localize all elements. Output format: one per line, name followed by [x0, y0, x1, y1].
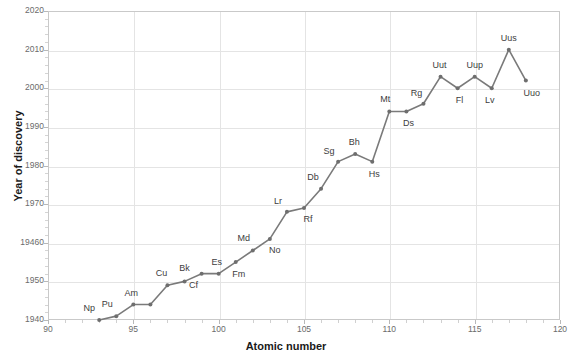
x-axis-tick-label: 90 [43, 325, 52, 334]
y-axis-tick-label: 1970 [25, 199, 44, 208]
y-axis-tick-label: 1940 [25, 315, 44, 324]
x-axis-tick-label: 115 [468, 325, 482, 334]
y-axis-minor-tick [45, 34, 48, 35]
y-axis-minor-tick [45, 142, 48, 143]
gridline-horizontal [49, 282, 559, 283]
x-axis-minor-tick [355, 320, 356, 323]
data-point-label: Mt [380, 95, 390, 104]
x-axis-tick-mark [48, 320, 49, 324]
y-axis-minor-tick [45, 57, 48, 58]
y-axis-title: Year of discovery [12, 86, 24, 226]
y-axis-minor-tick [45, 196, 48, 197]
x-axis-tick-mark [304, 320, 305, 324]
x-axis-minor-tick [150, 320, 151, 323]
y-axis-minor-tick [45, 297, 48, 298]
data-point-label: Uus [501, 33, 517, 42]
y-axis-tick-mark [44, 166, 48, 167]
x-axis-minor-tick [526, 320, 527, 323]
y-axis-minor-tick [45, 274, 48, 275]
y-axis-minor-tick [45, 173, 48, 174]
data-point-label: Lr [274, 196, 282, 205]
x-axis-tick-mark [219, 320, 220, 324]
data-point-label: Pu [102, 300, 113, 309]
y-axis-tick-mark [44, 127, 48, 128]
y-axis-minor-tick [45, 158, 48, 159]
gridline-horizontal [49, 51, 559, 52]
x-axis-tick-label: 120 [553, 325, 567, 334]
data-point-label: Uuo [524, 88, 541, 97]
y-axis-minor-tick [45, 119, 48, 120]
y-axis-tick-mark [44, 88, 48, 89]
y-axis-minor-tick [45, 42, 48, 43]
gridline-horizontal [49, 205, 559, 206]
x-axis-tick-mark [475, 320, 476, 324]
data-point-label: Db [307, 172, 319, 181]
y-axis-minor-tick [45, 312, 48, 313]
x-axis-tick-labels: 9095100105110115120 [0, 325, 572, 339]
data-point-label: Es [211, 257, 222, 266]
data-point-label: Md [238, 234, 251, 243]
x-axis-minor-tick [321, 320, 322, 323]
y-axis-tick-label: 19460 [20, 238, 44, 247]
y-axis-tick-mark [44, 204, 48, 205]
data-point-label: No [269, 245, 281, 254]
y-axis-tick-mark [44, 243, 48, 244]
x-axis-minor-tick [185, 320, 186, 323]
x-axis-minor-tick [441, 320, 442, 323]
data-point-label: Am [125, 288, 139, 297]
x-axis-tick-label: 110 [383, 325, 397, 334]
y-axis-minor-tick [45, 220, 48, 221]
y-axis-minor-tick [45, 150, 48, 151]
y-axis-minor-tick [45, 227, 48, 228]
data-point-label: Bh [349, 137, 360, 146]
y-axis-minor-tick [45, 111, 48, 112]
y-axis-tick-label: 1990 [25, 122, 44, 131]
y-axis-minor-tick [45, 189, 48, 190]
x-axis-minor-tick [202, 320, 203, 323]
y-axis-minor-tick [45, 289, 48, 290]
y-axis-tick-mark [44, 281, 48, 282]
y-axis-minor-tick [45, 266, 48, 267]
x-axis-minor-tick [82, 320, 83, 323]
gridline-horizontal [49, 167, 559, 168]
data-point-label: Uup [466, 60, 483, 69]
gridline-horizontal [49, 244, 559, 245]
x-axis-minor-tick [270, 320, 271, 323]
x-axis-title: Atomic number [0, 340, 572, 352]
gridline-vertical [134, 12, 135, 319]
x-axis-tick-mark [560, 320, 561, 324]
y-axis-tick-label: 1980 [25, 161, 44, 170]
y-axis-minor-tick [45, 212, 48, 213]
x-axis-minor-tick [287, 320, 288, 323]
x-axis-minor-tick [236, 320, 237, 323]
y-axis-minor-tick [45, 26, 48, 27]
y-axis-minor-tick [45, 65, 48, 66]
data-point-label: Cf [189, 280, 198, 289]
x-axis-tick-mark [133, 320, 134, 324]
y-axis-minor-tick [45, 181, 48, 182]
x-axis-minor-tick [253, 320, 254, 323]
data-point-label: Np [83, 304, 95, 313]
data-point-label: Cu [156, 269, 168, 278]
data-point-label: Uut [433, 60, 447, 69]
y-axis-minor-tick [45, 235, 48, 236]
gridline-vertical [305, 12, 306, 319]
x-axis-minor-tick [406, 320, 407, 323]
x-axis-tick-label: 100 [212, 325, 226, 334]
plot-area [48, 11, 560, 320]
x-axis-minor-tick [543, 320, 544, 323]
x-axis-minor-tick [116, 320, 117, 323]
gridline-vertical [220, 12, 221, 319]
data-point-label: Lv [485, 96, 495, 105]
x-axis-minor-tick [338, 320, 339, 323]
x-axis-minor-tick [372, 320, 373, 323]
y-axis-tick-label: 2000 [25, 83, 44, 92]
x-axis-minor-tick [167, 320, 168, 323]
y-axis-minor-tick [45, 104, 48, 105]
gridline-horizontal [49, 89, 559, 90]
y-axis-tick-label: 1950 [25, 276, 44, 285]
y-axis-minor-tick [45, 258, 48, 259]
gridline-vertical [476, 12, 477, 319]
gridline-horizontal [49, 128, 559, 129]
y-axis-minor-tick [45, 81, 48, 82]
